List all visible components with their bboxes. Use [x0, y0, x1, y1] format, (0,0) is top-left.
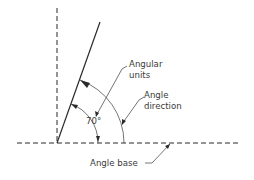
angle-direction-label-line1: Angle [144, 90, 168, 100]
angle-diagram: Angular units Angle direction 70° Angle … [0, 0, 254, 180]
angle-direction-leader [122, 97, 144, 124]
angle-direction-leader-arrow [122, 119, 126, 125]
angle-direction-arrowhead [80, 80, 90, 88]
angular-units-label-line2: units [129, 70, 151, 80]
angle-base-label: Angle base [90, 158, 138, 168]
angular-units-label-line1: Angular [129, 59, 163, 69]
angle-direction-label-line2: direction [144, 101, 182, 111]
angle-direction-arc [80, 80, 124, 143]
angle-value-arrowhead-top [71, 104, 78, 109]
angle-value-arrowhead-bottom [96, 136, 100, 142]
angle-value-label: 70° [86, 116, 101, 126]
angular-units-leader [96, 66, 127, 116]
